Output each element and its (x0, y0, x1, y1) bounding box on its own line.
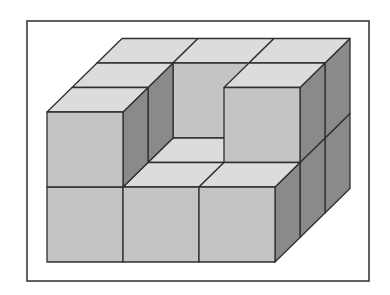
cube-structure-figure (0, 0, 390, 295)
cube-front-face (47, 112, 123, 187)
cube-front-face (199, 187, 275, 262)
cube-front-face (47, 187, 123, 262)
cube-group (47, 39, 350, 263)
cube-front-face (224, 88, 300, 163)
cube-front-face (123, 187, 199, 262)
